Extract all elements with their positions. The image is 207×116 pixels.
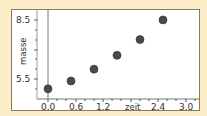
- x-tick-label: 0.6: [69, 102, 84, 112]
- data-point: [159, 16, 167, 24]
- x-tick-label: 0.0: [41, 102, 56, 112]
- x-tick-label: 1.2: [96, 102, 110, 112]
- x-axis-title: zeit: [125, 102, 141, 112]
- data-point: [90, 65, 98, 73]
- y-axis-title: masse: [18, 37, 28, 65]
- y-tick-label: 5.5: [16, 74, 30, 84]
- y-tick-label: 8.5: [16, 15, 30, 25]
- data-points: [44, 16, 167, 93]
- x-tick-label: 3.0: [179, 102, 194, 112]
- data-point: [136, 36, 144, 44]
- data-point: [113, 51, 121, 59]
- scatter-chart: 8.5 5.5 masse 0.0 0.6 1.2 zeit 2.4 3.0: [0, 0, 207, 116]
- data-point: [67, 77, 75, 85]
- x-tick-label: 2.4: [151, 102, 166, 112]
- data-point: [44, 85, 52, 93]
- y-axis-ticks: [34, 10, 38, 99]
